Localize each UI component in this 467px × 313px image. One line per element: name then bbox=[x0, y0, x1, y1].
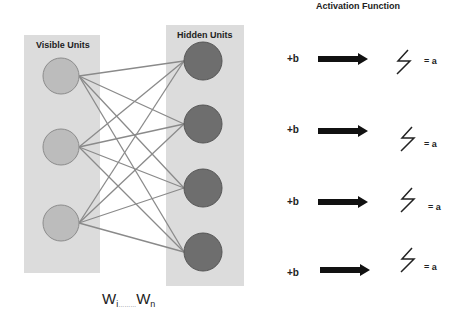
hidden-node bbox=[184, 105, 222, 143]
hidden-units-label: Hidden Units bbox=[177, 30, 233, 40]
bias-label: +b bbox=[287, 53, 299, 64]
arrow-right-icon bbox=[318, 125, 368, 137]
visible-node bbox=[43, 205, 79, 241]
activation-function-title: Activation Function bbox=[316, 1, 400, 11]
bias-label: +b bbox=[287, 124, 299, 135]
sigmoid-icon bbox=[394, 47, 414, 77]
bias-label: +b bbox=[287, 267, 299, 278]
output-label: = a bbox=[424, 139, 437, 149]
output-label: = a bbox=[428, 202, 441, 212]
hidden-node bbox=[184, 42, 222, 80]
sigmoid-icon bbox=[398, 124, 418, 154]
arrow-right-icon bbox=[318, 53, 368, 65]
visible-node bbox=[43, 129, 79, 165]
visible-units-label: Visible Units bbox=[36, 40, 90, 50]
output-label: = a bbox=[424, 262, 437, 272]
weight-first: W bbox=[102, 290, 116, 307]
visible-nodes bbox=[43, 58, 79, 241]
visible-node bbox=[43, 58, 79, 94]
hidden-node bbox=[184, 169, 222, 207]
weight-last-subscript: n bbox=[150, 299, 155, 309]
sigmoid-icon bbox=[398, 245, 418, 275]
weight-ellipsis: ……… bbox=[118, 302, 136, 308]
weight-last: W bbox=[136, 290, 150, 307]
bias-label: +b bbox=[287, 196, 299, 207]
arrow-right-icon bbox=[318, 196, 368, 208]
arrow-right-icon bbox=[320, 264, 370, 276]
sigmoid-icon bbox=[398, 185, 418, 215]
output-label: = a bbox=[424, 56, 437, 66]
hidden-node bbox=[184, 233, 222, 271]
weights-label: Wi………Wn bbox=[102, 290, 155, 309]
